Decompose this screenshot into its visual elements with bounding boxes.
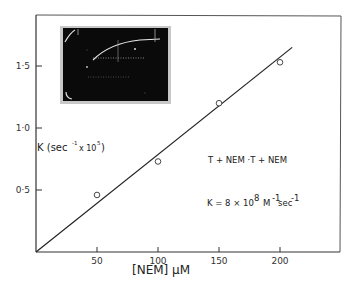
chart-figure: 0·51·01·5 50100150200 K (sec -1 x 10 5 )… bbox=[0, 0, 359, 293]
y-tick-label: 1·0 bbox=[16, 123, 31, 133]
x-axis-title: [NEM] μM bbox=[132, 263, 190, 277]
rate-constant-annotation: K = 8 × 10 8 M -1 sec -1 bbox=[207, 193, 299, 208]
y-ticks: 0·51·01·5 bbox=[16, 61, 42, 195]
data-point bbox=[155, 159, 161, 165]
svg-text:M: M bbox=[263, 198, 270, 208]
y-axis-title: K (sec -1 x 10 5 ) bbox=[37, 140, 105, 153]
inset-oscilloscope-photo bbox=[60, 26, 171, 104]
svg-text:x 10: x 10 bbox=[79, 144, 96, 153]
data-point bbox=[277, 59, 283, 65]
data-point bbox=[94, 192, 100, 198]
svg-text:): ) bbox=[101, 142, 105, 153]
y-tick-label: 1·5 bbox=[16, 61, 30, 71]
x-tick-label: 150 bbox=[210, 256, 227, 266]
x-tick-label: 200 bbox=[271, 256, 288, 266]
data-point bbox=[216, 100, 222, 106]
svg-text:K = 8 × 10: K = 8 × 10 bbox=[207, 198, 254, 208]
svg-text:8: 8 bbox=[254, 193, 259, 203]
reaction-annotation: T + NEM ·T + NEM bbox=[207, 155, 287, 165]
x-tick-label: 50 bbox=[91, 256, 103, 266]
svg-text:K (sec: K (sec bbox=[37, 142, 68, 153]
y-tick-label: 0·5 bbox=[16, 185, 30, 195]
svg-text:-1: -1 bbox=[291, 193, 299, 203]
svg-text:-1: -1 bbox=[72, 140, 77, 146]
